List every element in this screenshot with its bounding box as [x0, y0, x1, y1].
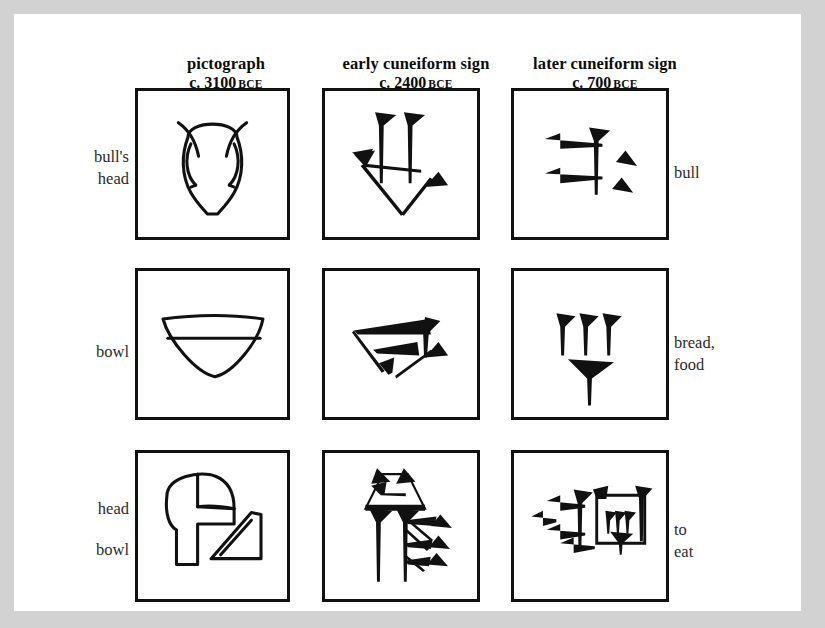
row-label-line2: food — [674, 354, 784, 376]
row-label-line1: bull — [674, 162, 784, 184]
bull-early-cuneiform-icon — [325, 91, 477, 237]
row-label-line2: eat — [674, 541, 784, 563]
row-label-left-bowl: bowl — [24, 341, 129, 363]
row-label-right-bull: bull — [674, 162, 784, 184]
glyph-box-to-eat-later-cuneiform — [511, 450, 669, 602]
glyph-box-bread-early-cuneiform — [322, 268, 480, 420]
row-label-line1: bread, — [674, 332, 784, 354]
bread-later-cuneiform-icon — [514, 271, 666, 417]
to-eat-later-cuneiform-icon — [514, 453, 666, 599]
glyph-box-bowl-pictograph — [135, 268, 290, 420]
glyph-box-bull-later-cuneiform — [511, 88, 669, 240]
bread-early-cuneiform-icon — [325, 271, 477, 417]
row-label-line1: to — [674, 519, 784, 541]
bull-later-cuneiform-icon — [514, 91, 666, 237]
row-label-right-to-eat: to eat — [674, 519, 784, 564]
row-label-right-bread-food: bread, food — [674, 332, 784, 377]
head-plus-bowl-pictograph-icon — [138, 453, 287, 599]
page-sheet: pictograph c. 3100BCE early cuneiform si… — [14, 14, 801, 611]
row-label-line1: head — [24, 498, 129, 520]
glyph-box-bull-early-cuneiform — [322, 88, 480, 240]
row-label-left-bowl-2: bowl — [24, 539, 129, 561]
column-header-name: later cuneiform sign — [510, 54, 700, 73]
glyph-box-bread-later-cuneiform — [511, 268, 669, 420]
to-eat-early-cuneiform-icon — [325, 453, 477, 599]
glyph-box-head-plus-bowl-pictograph — [135, 450, 290, 602]
glyph-box-to-eat-early-cuneiform — [322, 450, 480, 602]
row-label-line1: bowl — [24, 341, 129, 363]
glyph-box-bull-head-pictograph — [135, 88, 290, 240]
row-label-line2: bowl — [24, 539, 129, 561]
column-header-name: pictograph — [147, 54, 305, 73]
row-label-left-bulls-head: bull's head — [24, 146, 129, 191]
bull-head-pictograph-icon — [138, 91, 287, 237]
row-label-line1: bull's — [24, 146, 129, 168]
row-label-left-head: head — [24, 498, 129, 520]
column-header-name: early cuneiform sign — [321, 54, 511, 73]
bowl-pictograph-icon — [138, 271, 287, 417]
row-label-line2: head — [24, 168, 129, 190]
